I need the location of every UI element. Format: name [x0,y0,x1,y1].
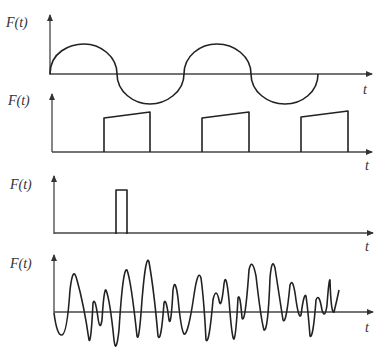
x-axis-label-prev: t [365,239,370,254]
force-types-diagram: F(t) t F(t) t F(t) t F(t) t [0,0,385,359]
random-signal [54,260,339,346]
y-axis-label: F(t) [9,256,32,272]
panel-random-force: t F(t) t [9,239,373,346]
panel-single-pulse: t F(t) [9,158,373,234]
x-axis-label: t [365,320,370,335]
rectangular-pulse [116,190,127,234]
y-axis-label: F(t) [7,93,30,109]
y-axis-label: F(t) [9,177,32,193]
panel-harmonic-force: F(t) t [5,15,372,104]
x-axis-label-prev: t [365,158,370,173]
y-axis-label: F(t) [5,15,28,31]
panel-periodic-pulses: F(t) [7,93,372,152]
x-axis-label: t [363,82,368,97]
pulse-train [104,111,348,152]
